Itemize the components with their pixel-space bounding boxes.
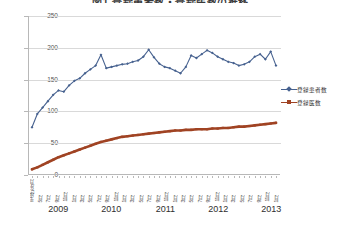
x-axis-month-label: 9月 <box>156 195 161 202</box>
data-point-marker <box>153 132 155 134</box>
data-point-marker <box>195 128 197 130</box>
data-point-marker <box>42 164 44 166</box>
x-axis-month-label: 5月 <box>38 195 43 202</box>
series-layer <box>28 16 280 175</box>
x-axis-tick <box>37 176 38 178</box>
data-point-marker <box>68 152 70 154</box>
data-point-marker <box>115 64 118 67</box>
data-point-marker <box>95 143 97 145</box>
x-axis-tick <box>149 176 150 178</box>
x-axis-tick <box>196 176 197 178</box>
data-point-marker <box>79 148 81 150</box>
x-axis-year-label: 2012 <box>198 204 238 214</box>
data-point-marker <box>100 141 102 143</box>
line-path <box>32 50 276 128</box>
data-point-marker <box>211 127 213 129</box>
x-axis-month-label: 11月 <box>265 192 270 202</box>
x-axis-tick <box>175 176 176 178</box>
data-point-marker <box>57 156 59 158</box>
x-axis-month-label: 9月 <box>206 195 211 202</box>
x-axis-tick <box>170 176 171 178</box>
data-point-marker <box>179 129 181 131</box>
legend-marker-diamond-icon <box>281 85 297 94</box>
x-axis-tick <box>127 176 128 178</box>
x-axis-tick <box>191 176 192 178</box>
x-axis-month-label: 7月 <box>248 195 253 202</box>
x-axis-month-label: 3月 <box>130 195 135 202</box>
chart-legend: 登録患者数 登録医数 <box>281 84 341 110</box>
legend-item-patients[interactable]: 登録患者数 <box>281 84 341 95</box>
x-axis-month-label: 1月 <box>122 195 127 202</box>
x-axis-month-label: 7月 <box>147 195 152 202</box>
chart-title: 図1 登録患者数・登録医数の推移 <box>0 0 341 3</box>
x-axis-tick <box>228 176 229 178</box>
data-point-marker <box>89 145 91 147</box>
legend-marker-square-icon <box>281 98 297 107</box>
x-axis-year-label: 2011 <box>145 204 185 214</box>
data-point-marker <box>275 64 278 67</box>
data-point-marker <box>222 127 224 129</box>
x-axis-month-label: 9月 <box>105 195 110 202</box>
x-axis-tick <box>255 176 256 178</box>
data-point-marker <box>238 126 240 128</box>
x-axis-month-label: 11月 <box>63 192 68 202</box>
x-axis-tick <box>64 176 65 178</box>
data-point-marker <box>110 138 112 140</box>
x-axis-month-label: 7月 <box>198 195 203 202</box>
x-axis-month-label: 3月 <box>80 195 85 202</box>
data-point-marker <box>73 150 75 152</box>
data-point-marker <box>259 124 261 126</box>
data-point-marker <box>190 129 192 131</box>
data-point-marker <box>248 125 250 127</box>
x-axis-tick <box>69 176 70 178</box>
data-point-marker <box>84 147 86 149</box>
data-point-marker <box>270 122 272 124</box>
x-axis-tick <box>117 176 118 178</box>
chart-figure: 図1 登録患者数・登録医数の推移 250200150100500 平成21年3月… <box>0 0 341 231</box>
x-axis-tick <box>159 176 160 178</box>
x-axis-tick <box>143 176 144 178</box>
legend-item-doctors[interactable]: 登録医数 <box>281 97 341 108</box>
data-point-marker <box>137 134 139 136</box>
data-point-marker <box>105 67 108 70</box>
x-axis-tick <box>165 176 166 178</box>
x-axis-tick <box>138 176 139 178</box>
data-point-marker <box>232 126 234 128</box>
data-point-marker <box>36 166 38 168</box>
data-point-marker <box>131 60 134 63</box>
data-point-marker <box>264 123 266 125</box>
x-axis-year-labels: 20092010201120122013 <box>0 204 341 218</box>
x-axis-tick <box>112 176 113 178</box>
data-point-marker <box>63 154 65 156</box>
x-axis-year-label: 2010 <box>91 204 131 214</box>
x-axis-month-label: 1月 <box>274 195 279 202</box>
x-axis-month-label: 3月 <box>231 195 236 202</box>
x-axis-month-label: 5月 <box>189 195 194 202</box>
data-point-marker <box>148 133 150 135</box>
x-axis-tick <box>106 176 107 178</box>
x-axis-month-label: 9月 <box>257 195 262 202</box>
x-axis-month-label: 11月 <box>114 192 119 202</box>
x-axis-tick <box>122 176 123 178</box>
x-axis-month-label: 7月 <box>97 195 102 202</box>
x-axis-tick <box>276 176 277 178</box>
x-axis-tick <box>90 176 91 178</box>
data-point-marker <box>243 126 245 128</box>
x-axis-tick <box>48 176 49 178</box>
x-axis-tick <box>212 176 213 178</box>
data-point-marker <box>126 62 129 65</box>
data-point-marker <box>121 136 123 138</box>
x-axis-month-label: 1月 <box>173 195 178 202</box>
x-axis-tick <box>96 176 97 178</box>
data-point-marker <box>201 128 203 130</box>
data-point-marker <box>52 159 54 161</box>
x-axis-tick <box>154 176 155 178</box>
line-path <box>32 123 276 169</box>
x-axis-tick <box>239 176 240 178</box>
x-axis-tick <box>218 176 219 178</box>
data-point-marker <box>174 129 176 131</box>
x-axis-tick <box>249 176 250 178</box>
x-axis-tick <box>74 176 75 178</box>
series-line-doctors <box>31 122 277 171</box>
x-axis-tick <box>181 176 182 178</box>
